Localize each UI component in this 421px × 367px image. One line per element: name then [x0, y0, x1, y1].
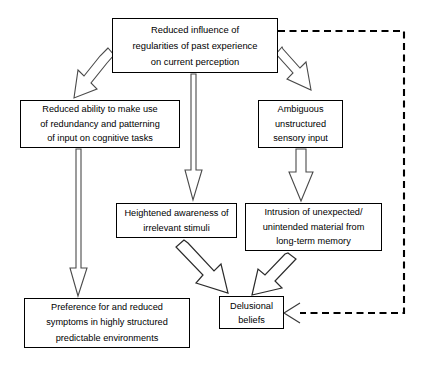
- node-preference-for-structured-environments[interactable]: Preference for and reduced symptoms in h…: [24, 298, 190, 348]
- node-text-line: regularities of past experience: [132, 38, 257, 54]
- node-text-line: Delusional: [230, 299, 273, 313]
- node-text-line: Preference for and reduced: [51, 300, 163, 316]
- node-intrusion-of-unexpected-material[interactable]: Intrusion of unexpected/ unintended mate…: [245, 203, 382, 251]
- node-text-line: of redundancy and patterning: [40, 117, 160, 132]
- node-ambiguous-unstructured-sensory-input[interactable]: Ambiguous unstructured sensory input: [258, 100, 343, 148]
- node-text-line: irrelevant stimuli: [143, 221, 209, 236]
- node-reduced-ability[interactable]: Reduced ability to make use of redundanc…: [20, 100, 180, 148]
- dashed-feedback-path: [278, 31, 404, 313]
- node-reduced-influence[interactable]: Reduced influence of regularities of pas…: [112, 18, 278, 73]
- feedback-arrowhead-icon: [284, 303, 300, 323]
- node-text-line: predictable environments: [56, 331, 159, 347]
- node-text-line: Ambiguous: [278, 102, 324, 117]
- node-text-line: Reduced influence of: [151, 22, 239, 38]
- node-delusional-beliefs[interactable]: Delusional beliefs: [219, 296, 284, 329]
- node-text-line: unstructured: [275, 117, 326, 132]
- node-heightened-awareness[interactable]: Heightened awareness of irrelevant stimu…: [116, 203, 237, 238]
- node-text-line: Reduced ability to make use: [42, 102, 157, 117]
- node-text-line: of input on cognitive tasks: [47, 131, 153, 146]
- node-text-line: unintended material from: [263, 220, 365, 235]
- node-text-line: Heightened awareness of: [124, 206, 228, 221]
- node-text-line: long-term memory: [276, 234, 351, 249]
- node-text-line: sensory input: [273, 131, 328, 146]
- node-text-line: symptoms in highly structured: [46, 315, 168, 331]
- node-text-line: on current perception: [151, 54, 240, 70]
- node-text-line: Intrusion of unexpected/: [264, 205, 362, 220]
- node-text-line: beliefs: [238, 313, 265, 327]
- flowchart-canvas: Reduced influence of regularities of pas…: [0, 0, 421, 367]
